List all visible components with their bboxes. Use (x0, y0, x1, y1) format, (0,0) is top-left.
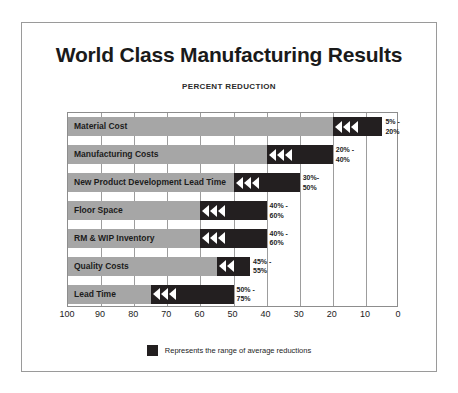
arrow-left-icon (244, 177, 251, 189)
row-label: Manufacturing Costs (74, 145, 159, 164)
arrow-left-icon (269, 149, 276, 161)
row-label: Lead Time (74, 285, 116, 304)
arrow-left-icon (227, 260, 234, 272)
range-value-line1: 50% - (237, 285, 255, 295)
legend-label-range: Represents the range of average reductio… (165, 346, 311, 355)
arrow-left-icon (343, 121, 350, 133)
arrow-left-icon (218, 205, 225, 217)
range-arrows (236, 173, 259, 192)
arrow-left-icon (169, 288, 176, 300)
legend-swatch-range (147, 345, 158, 356)
arrow-left-icon (285, 149, 292, 161)
arrow-left-icon (210, 232, 217, 244)
range-value-line1: 30%- (303, 173, 319, 183)
x-tick-label-40: 40 (261, 309, 271, 319)
x-tick-label-60: 60 (194, 309, 204, 319)
range-value-label: 30%-50% (303, 173, 319, 192)
page-title: World Class Manufacturing Results (22, 43, 436, 67)
chart-row[interactable]: Floor Space40% -60% (68, 201, 397, 220)
chart-subtitle: PERCENT REDUCTION (22, 82, 436, 91)
arrow-left-icon (351, 121, 358, 133)
chart-row[interactable]: Lead Time50% -75% (68, 285, 397, 304)
range-arrows (202, 201, 225, 220)
range-value-line2: 55% (253, 266, 271, 276)
x-tick-label-80: 80 (128, 309, 138, 319)
arrow-left-icon (161, 288, 168, 300)
arrow-left-icon (202, 205, 209, 217)
range-value-line2: 75% (237, 294, 255, 304)
range-value-label: 20% -40% (336, 145, 354, 164)
range-arrows (219, 257, 234, 276)
range-arrows (202, 229, 225, 248)
range-arrows (269, 145, 292, 164)
x-tick-label-90: 90 (95, 309, 105, 319)
row-label: Material Cost (74, 117, 127, 136)
arrow-left-icon (252, 177, 259, 189)
arrow-left-icon (202, 232, 209, 244)
range-value-label: 40% -60% (270, 201, 288, 220)
arrow-left-icon (153, 288, 160, 300)
arrow-left-icon (219, 260, 226, 272)
x-tick-label-50: 50 (227, 309, 237, 319)
x-tick-label-100: 100 (59, 309, 74, 319)
chart-row[interactable]: RM & WIP Inventory40% -60% (68, 229, 397, 248)
x-tick-label-10: 10 (360, 309, 370, 319)
arrow-left-icon (236, 177, 243, 189)
range-arrows (153, 285, 176, 304)
chart-row[interactable]: Quality Costs45% -55% (68, 257, 397, 276)
chart-plot-area: Material Cost5% -20%Manufacturing Costs2… (67, 112, 398, 307)
range-value-label: 40% -60% (270, 229, 288, 248)
chart-row[interactable]: Manufacturing Costs20% -40% (68, 145, 397, 164)
arrow-left-icon (335, 121, 342, 133)
chart-row[interactable]: Material Cost5% -20% (68, 117, 397, 136)
x-tick-label-70: 70 (161, 309, 171, 319)
range-value-line1: 20% - (336, 145, 354, 155)
range-value-line1: 40% - (270, 229, 288, 239)
arrow-left-icon (277, 149, 284, 161)
range-value-line2: 40% (336, 155, 354, 165)
range-value-label: 45% -55% (253, 257, 271, 276)
chart-legend: Represents the range of average reductio… (22, 345, 436, 356)
x-axis: 1009080706050403020100 (67, 309, 398, 323)
range-value-line1: 45% - (253, 257, 271, 267)
x-tick-label-20: 20 (327, 309, 337, 319)
range-value-label: 5% -20% (385, 117, 399, 136)
range-value-line2: 20% (385, 127, 399, 137)
row-label: RM & WIP Inventory (74, 229, 155, 248)
range-value-line2: 60% (270, 211, 288, 221)
range-arrows (335, 117, 358, 136)
slide-frame: World Class Manufacturing Results PERCEN… (21, 22, 437, 372)
range-value-line1: 5% - (385, 117, 399, 127)
x-tick-label-30: 30 (294, 309, 304, 319)
row-label: Floor Space (74, 201, 123, 220)
range-value-line1: 40% - (270, 201, 288, 211)
x-tick-label-0: 0 (395, 309, 400, 319)
range-value-line2: 60% (270, 238, 288, 248)
row-label: New Product Development Lead Time (74, 173, 226, 192)
chart-row[interactable]: New Product Development Lead Time30%-50% (68, 173, 397, 192)
arrow-left-icon (218, 232, 225, 244)
row-label: Quality Costs (74, 257, 129, 276)
range-value-line2: 50% (303, 183, 319, 193)
range-value-label: 50% -75% (237, 285, 255, 304)
arrow-left-icon (210, 205, 217, 217)
